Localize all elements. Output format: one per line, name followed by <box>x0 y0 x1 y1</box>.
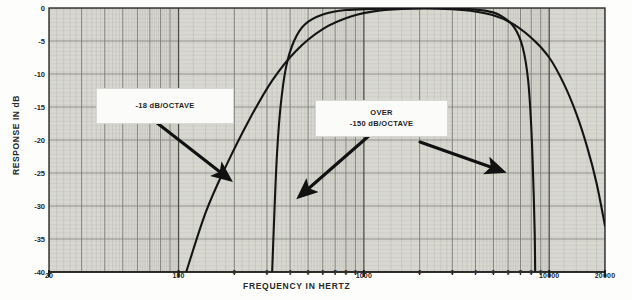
x-tick-label-minor: 5 <box>306 269 309 275</box>
x-tick-label-minor: 6 <box>506 269 509 275</box>
x-tick-label-minor: 2 <box>233 269 236 275</box>
x-tick-label-minor: 6 <box>321 269 324 275</box>
x-tick-label-minor: 9 <box>539 269 542 275</box>
x-tick-label-minor: 7 <box>519 269 522 275</box>
x-tick-label-minor: 8 <box>530 269 533 275</box>
x-tick-label-minor: 3 <box>265 269 268 275</box>
frequency-response-chart: 0-5-10-15-20-25-30-35-40 201001000100002… <box>0 0 632 300</box>
callout-steep-slope-line1: OVER <box>370 108 392 119</box>
x-axis-title: FREQUENCY IN HERTZ <box>243 281 350 291</box>
x-tick-label-major: 100 <box>172 272 184 279</box>
x-tick-label-minor: 4 <box>288 269 291 275</box>
x-tick-label-minor: 4 <box>474 269 477 275</box>
callout-low-slope: -18 dB/OCTAVE <box>96 88 234 124</box>
x-tick-label-major: 1000 <box>356 272 372 279</box>
y-axis-title: RESPONSE IN dB <box>11 75 21 195</box>
x-tick-label-minor: 2 <box>418 269 421 275</box>
callout-steep-slope: OVER -150 dB/OCTAVE <box>315 100 448 137</box>
x-tick-label-minor: 5 <box>492 269 495 275</box>
x-axis-tick-labels: 20100100010000200002345678923456789 <box>0 0 632 300</box>
callout-steep-slope-line2: -150 dB/OCTAVE <box>350 119 414 130</box>
x-tick-label-minor: 9 <box>354 269 357 275</box>
x-tick-label-major: 20000 <box>595 272 615 279</box>
x-tick-label-minor: 3 <box>451 269 454 275</box>
x-tick-label-minor: 7 <box>333 269 336 275</box>
x-tick-label-minor: 8 <box>344 269 347 275</box>
x-tick-label-major: 20 <box>45 272 53 279</box>
callout-low-slope-text: -18 dB/OCTAVE <box>135 101 194 112</box>
